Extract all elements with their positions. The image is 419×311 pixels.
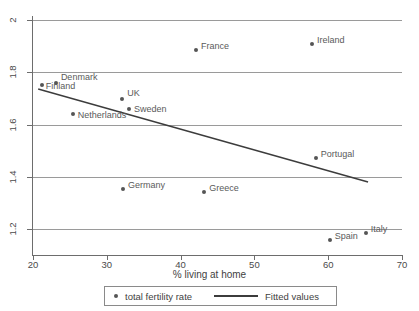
- y-tick-mark: [27, 229, 33, 230]
- data-point: [71, 112, 75, 116]
- y-tick-label-text: 1.2: [8, 216, 18, 242]
- legend-entry-fitted-values: Fitted values: [214, 291, 319, 302]
- legend-label-fitted-values: Fitted values: [265, 291, 319, 302]
- data-point-label: Germany: [128, 180, 165, 190]
- plot-area: [33, 16, 402, 250]
- data-point-label: Spain: [335, 231, 358, 241]
- data-point-label: Denmark: [61, 72, 98, 82]
- data-point-label: France: [201, 41, 229, 51]
- data-point-label: Netherlands: [78, 110, 127, 120]
- gridline-y: [33, 125, 402, 126]
- y-tick-label: 1.8: [0, 67, 26, 77]
- data-point: [121, 187, 125, 191]
- x-tick-label: 50: [239, 259, 269, 270]
- chart-legend: total fertility rate Fitted values: [104, 286, 337, 306]
- x-tick-label: 40: [166, 259, 196, 270]
- y-tick-label-text: 1.8: [8, 59, 18, 85]
- y-tick-mark: [27, 125, 33, 126]
- legend-label-total-fertility-rate: total fertility rate: [125, 291, 192, 302]
- x-tick-label: 70: [387, 259, 417, 270]
- data-point-label: Italy: [371, 224, 388, 234]
- gridline-y: [33, 229, 402, 230]
- y-axis-line: [32, 16, 33, 256]
- y-tick-mark: [27, 20, 33, 21]
- data-point-label: Sweden: [134, 104, 167, 114]
- y-tick-label: 1.6: [0, 120, 26, 130]
- x-axis-title: % living at home: [0, 269, 419, 280]
- data-point: [364, 231, 368, 235]
- y-tick-mark: [27, 177, 33, 178]
- y-tick-label: 1.4: [0, 172, 26, 182]
- scatter-chart: % living at home total fertility rate Fi…: [0, 0, 419, 311]
- y-tick-label-text: 1.6: [8, 112, 18, 138]
- y-tick-label-text: 1.4: [8, 164, 18, 190]
- x-tick-label: 60: [313, 259, 343, 270]
- gridline-y: [33, 20, 402, 21]
- gridline-y: [33, 177, 402, 178]
- legend-line-marker-icon: [214, 295, 258, 297]
- y-tick-label: 1.2: [0, 224, 26, 234]
- data-point: [310, 42, 314, 46]
- data-point: [328, 238, 332, 242]
- data-point-label: UK: [127, 88, 140, 98]
- y-tick-label-text: 2: [8, 7, 18, 33]
- x-tick-label: 20: [18, 259, 48, 270]
- legend-entry-total-fertility-rate: total fertility rate: [114, 291, 192, 302]
- y-tick-label: 2: [0, 15, 26, 25]
- y-tick-mark: [27, 72, 33, 73]
- x-tick-label: 30: [92, 259, 122, 270]
- data-point-label: Ireland: [317, 35, 345, 45]
- data-point-label: Finland: [46, 81, 76, 91]
- x-axis-line: [32, 255, 403, 256]
- data-point: [127, 107, 131, 111]
- data-point-label: Portugal: [321, 149, 355, 159]
- data-point-label: Greece: [209, 183, 239, 193]
- legend-point-marker-icon: [114, 294, 118, 298]
